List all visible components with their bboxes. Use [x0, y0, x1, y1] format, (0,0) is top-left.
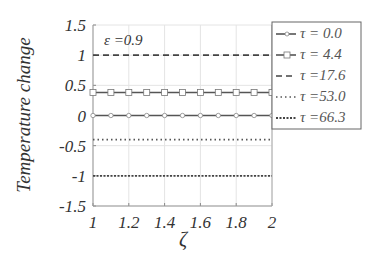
legend-entry: τ =66.3 [300, 109, 346, 125]
epsilon-annotation: ε =0.9 [104, 32, 143, 48]
x-tick-label: 1.8 [226, 213, 248, 232]
x-tick-label: 1.4 [154, 213, 176, 232]
y-tick-label: -1 [72, 167, 86, 186]
x-tick-label: 1.6 [190, 213, 212, 232]
axes: 11.21.41.61.821.510.50-0.5-1-1.5 [59, 16, 277, 232]
x-tick-label: 2 [268, 213, 277, 232]
y-axis-label: Temperature change [13, 37, 34, 192]
y-tick-label: 0 [78, 107, 87, 126]
legend-entry: τ = 4.4 [300, 46, 342, 62]
legend-entry: τ = 0.0 [300, 25, 342, 41]
y-tick-label: 1 [78, 46, 87, 65]
legend-entry: τ =17.6 [300, 67, 346, 83]
y-tick-label: 1.5 [65, 16, 86, 35]
legend-entry: τ =53.0 [300, 88, 346, 104]
y-tick-label: -1.5 [59, 197, 86, 216]
legend: τ = 0.0τ = 4.4τ =17.6τ =53.0τ =66.3 [272, 22, 361, 129]
line-chart: 11.21.41.61.821.510.50-0.5-1-1.5 ε =0.9 … [0, 0, 380, 264]
x-tick-label: 1.2 [118, 213, 140, 232]
x-axis-label: ζ [179, 228, 189, 251]
series-lines [90, 55, 275, 176]
y-tick-label: 0.5 [65, 76, 86, 95]
y-tick-label: -0.5 [59, 137, 86, 156]
x-tick-label: 1 [89, 213, 98, 232]
